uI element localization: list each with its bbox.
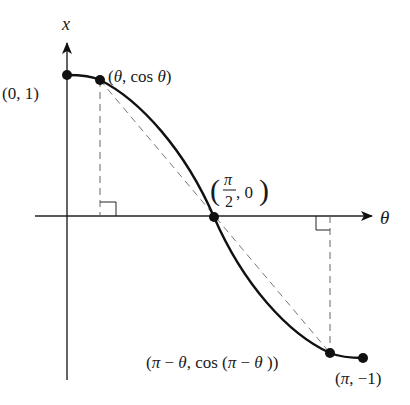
right-angle-marker-right — [316, 216, 330, 230]
label-pi-minus-theta-point: (π − θ, cos (π − θ )) — [146, 353, 278, 372]
point-mid — [209, 212, 219, 222]
label-start: (0, 1) — [2, 84, 39, 103]
point-theta — [95, 75, 105, 85]
svg-text:, 0: , 0 — [236, 183, 253, 202]
label-end-point: (π, −1) — [335, 369, 381, 388]
point-start — [62, 70, 72, 80]
x-axis-label: x — [61, 14, 70, 34]
point-pi-minus-theta — [325, 348, 335, 358]
svg-text:π: π — [224, 171, 233, 188]
svg-text:): ) — [259, 173, 269, 207]
svg-text:2: 2 — [225, 193, 233, 210]
svg-text:(: ( — [210, 173, 220, 207]
cosine-symmetry-diagram: x θ (0, 1) (θ, cos θ) ( π 2 , 0 ) (π − θ… — [0, 0, 410, 405]
label-mid-point: ( π 2 , 0 ) — [210, 171, 269, 210]
label-theta-point: (θ, cos θ) — [108, 67, 171, 86]
theta-axis-label: θ — [380, 207, 389, 228]
point-end — [358, 353, 368, 363]
right-angle-marker-left — [100, 202, 116, 216]
